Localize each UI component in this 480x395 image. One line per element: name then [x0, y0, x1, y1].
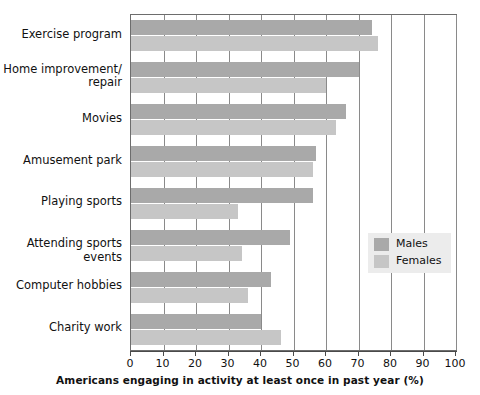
bar-females [131, 288, 248, 303]
x-tick [228, 351, 229, 356]
bar-group [131, 62, 456, 93]
legend: Males Females [368, 233, 451, 273]
bar-males [131, 62, 359, 77]
bar-females [131, 162, 313, 177]
bar-females [131, 120, 336, 135]
category-label-line: Home improvement/ [0, 63, 122, 77]
category-label: Home improvement/repair [0, 63, 122, 90]
x-tick [455, 351, 456, 356]
category-label: Attending sports events [0, 237, 122, 264]
bar-females [131, 36, 378, 51]
x-tick-label: 10 [148, 357, 178, 370]
bar-females [131, 204, 238, 219]
x-axis-title: Americans engaging in activity at least … [0, 374, 480, 386]
x-tick-label: 90 [408, 357, 438, 370]
bar-group [131, 104, 456, 135]
bar-females [131, 78, 326, 93]
bar-group [131, 146, 456, 177]
bar-males [131, 314, 261, 329]
bar-group [131, 188, 456, 219]
bar-females [131, 246, 242, 261]
x-tick [260, 351, 261, 356]
category-label: Movies [0, 112, 122, 126]
bar-males [131, 20, 372, 35]
x-tick-label: 80 [375, 357, 405, 370]
x-tick [325, 351, 326, 356]
bar-group [131, 314, 456, 345]
legend-swatch-males-icon [374, 238, 389, 251]
bar-females [131, 330, 281, 345]
legend-swatch-females-icon [374, 255, 389, 268]
bar-group [131, 272, 456, 303]
category-label: Computer hobbies [0, 279, 122, 293]
category-label-line: Computer hobbies [0, 279, 122, 293]
x-tick-label: 50 [278, 357, 308, 370]
x-tick [390, 351, 391, 356]
legend-label-males: Males [396, 237, 428, 251]
x-tick-label: 20 [180, 357, 210, 370]
category-label: Charity work [0, 321, 122, 335]
plot-area [130, 14, 457, 351]
bar-males [131, 146, 316, 161]
x-tick [358, 351, 359, 356]
grouped-bar-chart: Exercise programHome improvement/repairM… [0, 0, 480, 395]
x-tick [293, 351, 294, 356]
category-label: Exercise program [0, 28, 122, 42]
category-label-line: Charity work [0, 321, 122, 335]
x-axis-line [130, 351, 457, 352]
x-tick-label: 70 [343, 357, 373, 370]
x-tick-label: 100 [440, 357, 470, 370]
legend-label-females: Females [396, 254, 442, 268]
category-label-line: repair [0, 76, 122, 90]
category-label: Playing sports [0, 195, 122, 209]
category-label-line: Amusement park [0, 154, 122, 168]
x-tick [130, 351, 131, 356]
category-label-line: Exercise program [0, 28, 122, 42]
x-tick-label: 40 [245, 357, 275, 370]
bar-males [131, 230, 290, 245]
bar-group [131, 20, 456, 51]
bars-layer [131, 15, 456, 350]
category-label-line: Playing sports [0, 195, 122, 209]
category-label-line: Attending sports events [0, 237, 122, 264]
x-tick-label: 30 [213, 357, 243, 370]
gridline [456, 15, 457, 350]
category-label: Amusement park [0, 154, 122, 168]
x-tick-label: 60 [310, 357, 340, 370]
bar-males [131, 272, 271, 287]
bar-males [131, 188, 313, 203]
x-tick-label: 0 [115, 357, 145, 370]
x-tick [163, 351, 164, 356]
x-tick [423, 351, 424, 356]
x-tick [195, 351, 196, 356]
category-axis-labels: Exercise programHome improvement/repairM… [0, 14, 126, 351]
category-label-line: Movies [0, 112, 122, 126]
bar-males [131, 104, 346, 119]
